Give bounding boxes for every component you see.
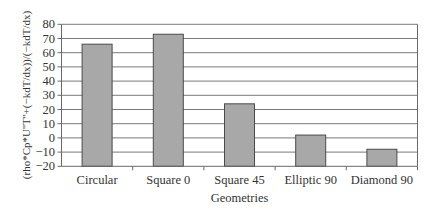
bar [153,34,183,166]
bar [225,104,255,166]
y-axis-title: (rho*Cp*U''T''+(−kdT/dx))/(−kdT/dx) [20,11,33,180]
x-category-label: Circular [77,173,119,187]
bar [367,149,397,166]
bar-chart: 80706050403020100−10−20 CircularSquare 0… [0,0,437,214]
y-tick-label: −20 [35,159,55,173]
x-category-label: Elliptic 90 [284,173,336,187]
y-tick-label: 10 [43,117,56,131]
y-tick-label: 60 [43,46,56,60]
x-category-label: Diamond 90 [351,173,413,187]
x-axis-title: Geometries [211,191,269,205]
bar [82,44,112,166]
x-category-label: Square 0 [146,173,190,187]
y-tick-label: 30 [43,88,56,102]
y-tick-label: 70 [43,32,56,46]
y-tick-label: 40 [43,74,56,88]
y-tick-label: 50 [43,60,56,74]
bar [296,135,326,166]
x-category-label: Square 45 [214,173,264,187]
y-tick-label: 80 [43,17,56,31]
y-tick-label: −10 [35,145,55,159]
y-tick-labels: 80706050403020100−10−20 [35,17,55,173]
y-tick-label: 0 [49,131,55,145]
bars [82,34,397,166]
y-tick-label: 20 [43,103,56,117]
x-category-labels: CircularSquare 0Square 45Elliptic 90Diam… [77,173,413,187]
